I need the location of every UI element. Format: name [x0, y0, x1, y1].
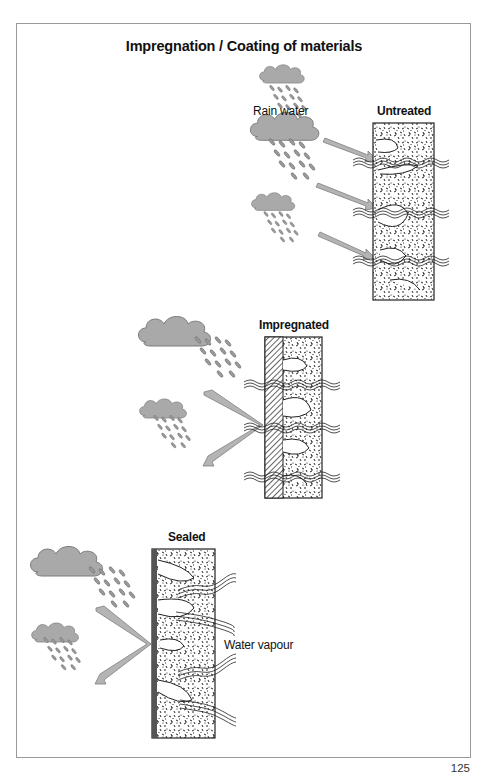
page-number: 125 — [451, 762, 470, 774]
untreated-label: Untreated — [377, 104, 431, 118]
impregnated-panel — [139, 317, 341, 499]
water-vapour-label: Water vapour — [224, 638, 293, 652]
impregnated-label: Impregnated — [259, 318, 329, 332]
sealed-panel — [31, 547, 237, 739]
rain-water-label: Rain water — [253, 104, 308, 118]
sealed-label: Sealed — [168, 530, 206, 544]
untreated-panel — [250, 65, 449, 300]
